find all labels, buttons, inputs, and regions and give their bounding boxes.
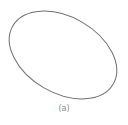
figure-caption: (a): [0, 104, 128, 113]
ellipse-shape: [0, 0, 128, 117]
